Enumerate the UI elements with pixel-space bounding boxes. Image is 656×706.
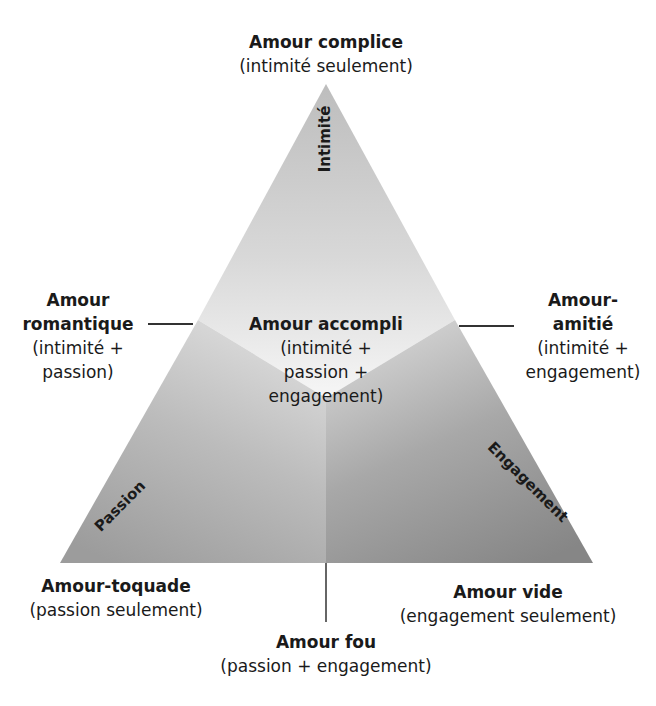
label-sub-line1: (intimité + bbox=[515, 336, 651, 360]
label-sub-line2: engagement) bbox=[515, 360, 651, 384]
axis-label-intimacy: Intimité bbox=[316, 103, 334, 175]
label-sub: (engagement seulement) bbox=[388, 604, 628, 628]
love-triangle-diagram: Intimité Passion Engagement Amour compli… bbox=[0, 0, 656, 706]
label-title-line1: Amour- bbox=[515, 288, 651, 312]
label-sub-line2: passion + bbox=[236, 360, 416, 384]
label-sub: (passion seulement) bbox=[18, 598, 214, 622]
label-empty-love: Amour vide (engagement seulement) bbox=[388, 580, 628, 628]
label-title-line2: romantique bbox=[8, 312, 148, 336]
label-title: Amour fou bbox=[206, 630, 446, 654]
label-title: Amour complice bbox=[206, 30, 446, 54]
label-friendship-love: Amour- amitié (intimité + engagement) bbox=[515, 288, 651, 384]
label-title-line2: amitié bbox=[515, 312, 651, 336]
label-title: Amour vide bbox=[388, 580, 628, 604]
label-sub-line3: engagement) bbox=[236, 384, 416, 408]
label-consummate-love: Amour accompli (intimité + passion + eng… bbox=[236, 312, 416, 408]
label-title-line1: Amour bbox=[8, 288, 148, 312]
label-title: Amour-toquade bbox=[18, 574, 214, 598]
label-companionate-love: Amour complice (intimité seulement) bbox=[206, 30, 446, 78]
label-fatuous-love: Amour fou (passion + engagement) bbox=[206, 630, 446, 678]
label-romantic-love: Amour romantique (intimité + passion) bbox=[8, 288, 148, 384]
label-sub: (intimité seulement) bbox=[206, 54, 446, 78]
label-sub: (passion + engagement) bbox=[206, 654, 446, 678]
label-sub-line1: (intimité + bbox=[8, 336, 148, 360]
label-title: Amour accompli bbox=[236, 312, 416, 336]
label-sub-line2: passion) bbox=[8, 360, 148, 384]
label-infatuation: Amour-toquade (passion seulement) bbox=[18, 574, 214, 622]
label-sub-line1: (intimité + bbox=[236, 336, 416, 360]
